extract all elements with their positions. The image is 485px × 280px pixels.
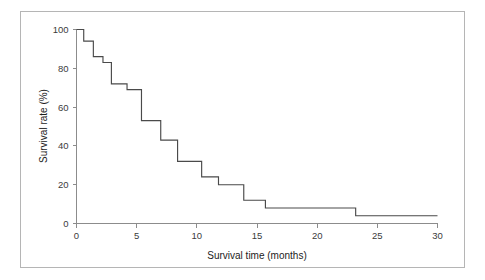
x-tick-label: 10 xyxy=(192,230,203,241)
y-axis-title: Survival rate (%) xyxy=(38,89,49,163)
y-axis-ticks: 020406080100 xyxy=(53,24,77,229)
survival-step-curve xyxy=(77,30,438,216)
y-tick-label: 0 xyxy=(63,218,68,229)
y-tick-label: 80 xyxy=(58,63,69,74)
x-tick-label: 15 xyxy=(252,230,263,241)
x-tick-label: 20 xyxy=(312,230,323,241)
y-tick-label: 60 xyxy=(58,102,69,113)
x-tick-label: 0 xyxy=(74,230,79,241)
x-tick-label: 30 xyxy=(432,230,443,241)
x-tick-label: 5 xyxy=(134,230,139,241)
x-axis-title: Survival time (months) xyxy=(207,250,306,261)
x-axis-ticks: 051015202530 xyxy=(74,224,443,241)
y-tick-label: 40 xyxy=(58,140,69,151)
y-tick-label: 100 xyxy=(53,24,69,35)
figure-root: 020406080100 051015202530 Survival time … xyxy=(0,0,485,280)
x-tick-label: 25 xyxy=(372,230,383,241)
y-tick-label: 20 xyxy=(58,179,69,190)
survival-curve-chart: 020406080100 051015202530 Survival time … xyxy=(0,0,485,280)
